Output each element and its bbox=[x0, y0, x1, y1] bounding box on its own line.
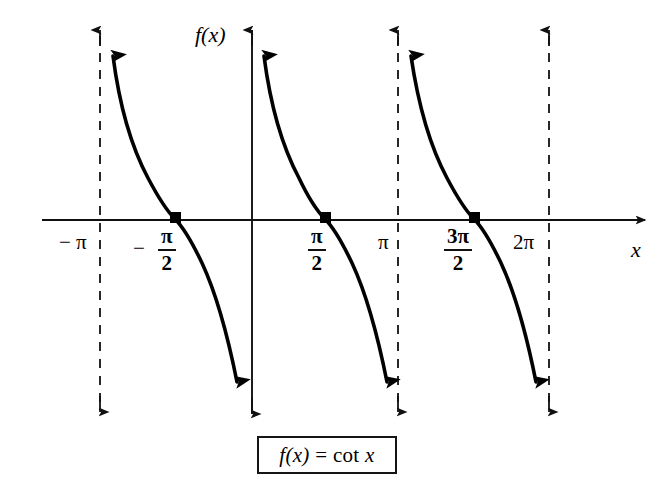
caption-box: f(x) = cot x bbox=[257, 436, 397, 474]
tick-sign-neg-pi-over-2: − bbox=[133, 236, 145, 261]
zero-markers-group bbox=[170, 212, 480, 223]
tick-label-pi: π bbox=[378, 232, 389, 253]
tick-label-three-pi-over-2: 3π 2 bbox=[444, 226, 472, 275]
tick-numerator-pi-over-2: π bbox=[308, 226, 326, 248]
caption-expression: cot x bbox=[333, 443, 375, 467]
tick-denominator-neg-pi-over-2: 2 bbox=[158, 252, 176, 274]
tick-numerator-three-pi-over-2: 3π bbox=[444, 226, 472, 248]
graph-canvas bbox=[0, 0, 664, 489]
tick-label-neg-pi: − π bbox=[59, 232, 87, 253]
y-axis-label: f(x) bbox=[195, 24, 226, 46]
caption-text: f(x) = cot x bbox=[279, 443, 374, 468]
tick-label-neg-pi-over-2: π 2 bbox=[158, 226, 176, 275]
tick-denominator-pi-over-2: 2 bbox=[308, 252, 326, 274]
cotangent-figure: f(x) x − π − π 2 π 2 π 3π 2 2π f(x) = co… bbox=[0, 0, 664, 489]
caption-function-name: f(x) bbox=[279, 443, 309, 467]
tick-numerator-neg-pi-over-2: π bbox=[158, 226, 176, 248]
caption-equals: = bbox=[315, 443, 327, 467]
zero-marker-pi-over-2 bbox=[320, 212, 331, 223]
tick-label-two-pi: 2π bbox=[513, 232, 534, 253]
x-axis-label: x bbox=[631, 239, 641, 261]
tick-denominator-three-pi-over-2: 2 bbox=[444, 252, 472, 274]
axes-group bbox=[42, 30, 645, 414]
zero-marker-three-pi-over-2 bbox=[469, 212, 480, 223]
tick-label-pi-over-2: π 2 bbox=[308, 226, 326, 275]
zero-marker-neg-pi-over-2 bbox=[170, 212, 181, 223]
